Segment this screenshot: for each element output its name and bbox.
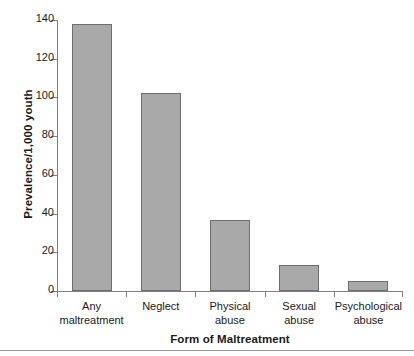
x-category-label-line: maltreatment <box>57 313 126 327</box>
bar <box>210 220 250 291</box>
y-tick-label: 80 <box>42 128 54 140</box>
x-tick-mark <box>126 291 127 297</box>
x-category-label-line: Sexual <box>265 299 334 313</box>
x-axis-title: Form of Maltreatment <box>57 333 403 345</box>
bar <box>72 24 112 291</box>
bar-chart-figure: Prevalence/1,000 youth 02040608010012014… <box>0 0 414 356</box>
x-category-label: Anymaltreatment <box>57 299 126 327</box>
x-category-label: Neglect <box>126 299 195 313</box>
plot-area: 020406080100120140 <box>57 20 403 291</box>
y-tick-label: 60 <box>42 167 54 179</box>
bars-layer <box>57 20 403 291</box>
x-axis-line <box>57 291 403 292</box>
y-tick-label: 100 <box>36 89 54 101</box>
x-tick-mark <box>402 291 403 297</box>
x-category-label-line: Any <box>57 299 126 313</box>
bar <box>279 265 319 291</box>
x-tick-mark <box>334 291 335 297</box>
y-axis-title: Prevalence/1,000 youth <box>22 44 34 264</box>
x-category-label-line: abuse <box>195 313 264 327</box>
y-tick-label: 20 <box>42 244 54 256</box>
x-category-label: Psychologicalabuse <box>334 299 403 327</box>
bottom-divider <box>0 350 414 351</box>
x-tick-mark <box>195 291 196 297</box>
bar <box>348 281 388 291</box>
x-category-label-line: abuse <box>265 313 334 327</box>
x-category-label: Sexualabuse <box>265 299 334 327</box>
x-tick-mark <box>265 291 266 297</box>
x-category-label-line: Psychological <box>334 299 403 313</box>
y-tick-label: 120 <box>36 51 54 63</box>
y-tick-label: 0 <box>48 283 54 295</box>
y-tick-label: 140 <box>36 12 54 24</box>
y-tick-label: 40 <box>42 206 54 218</box>
x-category-label: Physicalabuse <box>195 299 264 327</box>
bar <box>141 93 181 291</box>
x-category-label-line: abuse <box>334 313 403 327</box>
x-category-label-line: Neglect <box>126 299 195 313</box>
x-tick-mark <box>57 291 58 297</box>
x-axis-category-labels: AnymaltreatmentNeglectPhysicalabuseSexua… <box>57 299 403 333</box>
x-category-label-line: Physical <box>195 299 264 313</box>
